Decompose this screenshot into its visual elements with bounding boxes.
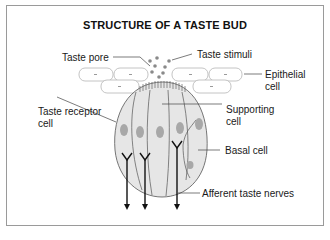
label-epithelial-cell-1: Epithelial xyxy=(265,69,306,80)
label-taste-stimuli: Taste stimuli xyxy=(197,49,252,60)
label-taste-pore: Taste pore xyxy=(62,52,109,63)
taste-bud-body xyxy=(115,82,208,197)
label-taste-receptor-2: cell xyxy=(38,118,53,129)
label-basal-cell: Basal cell xyxy=(225,145,268,156)
label-taste-receptor-1: Taste receptor xyxy=(38,106,101,117)
label-epithelial-cell-2: cell xyxy=(265,81,280,92)
taste-stimuli-dots xyxy=(148,56,171,79)
label-supporting-cell-1: Supporting xyxy=(226,104,274,115)
label-supporting-cell-2: cell xyxy=(226,116,241,127)
label-afferent-nerves: Afferent taste nerves xyxy=(202,188,294,199)
